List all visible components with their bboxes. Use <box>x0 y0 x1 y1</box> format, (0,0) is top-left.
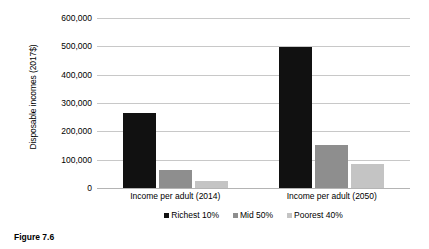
chart-legend: Richest 10%Mid 50%Poorest 40% <box>97 208 410 222</box>
legend-label: Mid 50% <box>240 209 273 221</box>
y-axis-tick-label: 400,000 <box>32 71 92 80</box>
gridline <box>97 46 410 47</box>
legend-label: Poorest 40% <box>294 209 343 221</box>
legend-swatch-icon <box>287 213 292 218</box>
x-axis-category-label: Income per adult (2050) <box>254 190 411 203</box>
legend-item: Poorest 40% <box>287 209 343 221</box>
gridline <box>97 188 410 189</box>
plot-area <box>97 18 410 188</box>
legend-item: Mid 50% <box>233 209 273 221</box>
y-axis-tick-label: 600,000 <box>32 14 92 23</box>
bar <box>351 164 384 188</box>
x-axis-category-labels: Income per adult (2014)Income per adult … <box>97 190 410 204</box>
y-axis-tick-labels: 0100,000200,000300,000400,000500,000600,… <box>30 18 92 188</box>
legend-swatch-icon <box>233 213 238 218</box>
legend-swatch-icon <box>164 213 169 218</box>
gridline <box>97 103 410 104</box>
bar <box>315 145 348 188</box>
y-axis-tick-label: 0 <box>32 184 92 193</box>
figure-7-6: Disposable incomes (2017$) 0100,000200,0… <box>0 0 429 249</box>
gridline <box>97 18 410 19</box>
x-axis-category-label: Income per adult (2014) <box>97 190 254 203</box>
figure-caption: Figure 7.6 <box>14 232 54 243</box>
y-axis-tick-label: 500,000 <box>32 42 92 51</box>
bar <box>279 47 312 188</box>
legend-label: Richest 10% <box>171 209 219 221</box>
bar <box>159 170 192 188</box>
y-axis-tick-label: 200,000 <box>32 127 92 136</box>
bar <box>195 181 228 188</box>
y-axis-tick-label: 300,000 <box>32 99 92 108</box>
gridline <box>97 75 410 76</box>
y-axis-tick-label: 100,000 <box>32 156 92 165</box>
legend-item: Richest 10% <box>164 209 219 221</box>
bar <box>123 113 156 188</box>
